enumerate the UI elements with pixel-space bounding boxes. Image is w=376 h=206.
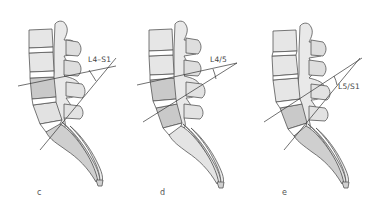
panel-d: L4/5 d — [125, 0, 250, 206]
angle-label-l4-5: L4/5 — [210, 55, 227, 64]
spine-diagram-l4-s1 — [0, 0, 125, 206]
panel-letter-d: d — [160, 188, 165, 197]
spine-diagram-l5-s1 — [250, 0, 376, 206]
spine-diagram-l4-5 — [125, 0, 250, 206]
angle-label-l5-s1: L5/S1 — [338, 82, 360, 91]
panel-e: L5/S1 e — [250, 0, 375, 206]
panel-c: L4–S1 c — [0, 0, 125, 206]
panel-letter-c: c — [37, 188, 41, 197]
angle-label-l4-s1: L4–S1 — [88, 55, 111, 64]
panel-letter-e: e — [282, 188, 287, 197]
